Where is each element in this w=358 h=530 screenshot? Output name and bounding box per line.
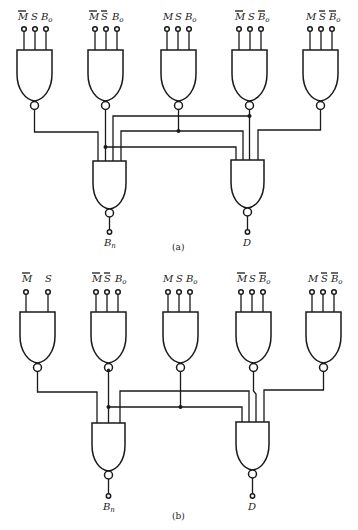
gate-a1: M S Bo [17,11,53,110]
label-m-bar: M [91,273,103,284]
label-bo-bar: Bo [258,273,271,286]
gate-a2: M S Bo [88,11,124,110]
label-bo: Bo [40,11,53,24]
output-bn-label: Bn [102,501,115,514]
gate-b1: M S [20,273,55,372]
label-bo-bar: Bo [328,11,341,24]
wiring-b [38,368,324,423]
label-bo: Bo [185,273,198,286]
gate-b5: M S Bo [306,273,343,372]
part-b: M S M S Bo M S Bo M [20,273,343,521]
label-m: M [162,11,174,22]
label-bo: Bo [111,11,124,24]
label-m: M [307,273,319,284]
label-m: M [305,11,317,22]
gate-b-bn: Bn [92,423,125,514]
label-m-bar: M [236,273,248,284]
circuit-diagram: M S Bo M S Bo M S Bo [0,0,358,530]
label-s: S [175,11,182,22]
label-bo-bar: Bo [330,273,343,286]
gate-a-bn: Bn [93,161,126,250]
caption-a: (a) [172,242,184,252]
label-m-bar: M [234,11,246,22]
gate-b3: M S Bo [162,273,198,372]
label-s-bar: S [319,11,326,22]
output-d-label: D [247,501,256,512]
label-s: S [31,11,38,22]
label-m-bar: M [21,273,33,284]
label-s-bar: S [104,273,111,284]
label-s-bar: S [101,11,108,22]
label-s: S [248,11,255,22]
gate-a-d: D [231,160,264,248]
label-s-bar: S [321,273,328,284]
part-a: M S Bo M S Bo M S Bo [17,11,341,252]
gate-a3: M S Bo [161,11,197,110]
label-bo: Bo [114,273,127,286]
gate-a4: M S Bo [232,11,270,110]
output-d-label: D [242,237,251,248]
output-bn-label: Bn [103,237,116,250]
label-s: S [176,273,183,284]
label-bo-bar: Bo [257,11,270,24]
label-m: M [162,273,174,284]
label-s: S [249,273,256,284]
gate-a5: M S Bo [303,11,341,110]
gate-b2: M S Bo [91,273,127,372]
gate-b-d: D [236,422,269,512]
label-m-bar: M [17,11,29,22]
label-bo: Bo [184,11,197,24]
label-m-bar: M [88,11,100,22]
label-s: S [45,273,52,284]
wiring-a [35,110,321,161]
caption-b: (b) [172,511,185,521]
gate-b4: M S Bo [236,273,271,372]
